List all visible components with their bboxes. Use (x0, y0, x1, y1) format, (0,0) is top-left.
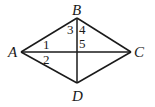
angle-label-4: 4 (79, 22, 86, 37)
side-cd (77, 52, 131, 83)
angle-label-1: 1 (43, 37, 50, 52)
angle-label-3: 3 (67, 22, 74, 37)
vertex-label-a: A (7, 44, 18, 60)
rhombus-diagram: A B C D 1 2 3 4 5 (0, 0, 155, 107)
angle-label-5: 5 (79, 36, 86, 51)
vertex-label-b: B (72, 2, 81, 18)
vertex-label-d: D (71, 88, 83, 104)
angle-label-2: 2 (43, 52, 50, 67)
vertex-label-c: C (134, 44, 145, 60)
